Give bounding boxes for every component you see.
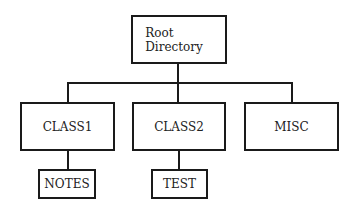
class1-connector	[67, 82, 69, 103]
misc-label: MISC	[274, 120, 308, 134]
misc-node: MISC	[244, 102, 339, 151]
class2-node: CLASS2	[132, 102, 226, 151]
misc-connector	[291, 82, 293, 103]
notes-label: NOTES	[44, 177, 89, 191]
root-label-line2: Directory	[145, 40, 203, 54]
test-connector	[178, 150, 180, 170]
root-directory-node: Root Directory	[131, 15, 227, 64]
class1-label: CLASS1	[43, 120, 93, 134]
notes-connector	[67, 150, 69, 170]
class1-node: CLASS1	[20, 102, 115, 151]
test-label: TEST	[163, 177, 196, 191]
horizontal-connector	[67, 82, 293, 84]
class2-label: CLASS2	[154, 120, 204, 134]
root-label-line1: Root	[145, 26, 203, 40]
class2-connector	[177, 82, 179, 103]
test-node: TEST	[151, 169, 208, 199]
notes-node: NOTES	[38, 169, 96, 199]
root-connector	[177, 63, 179, 84]
